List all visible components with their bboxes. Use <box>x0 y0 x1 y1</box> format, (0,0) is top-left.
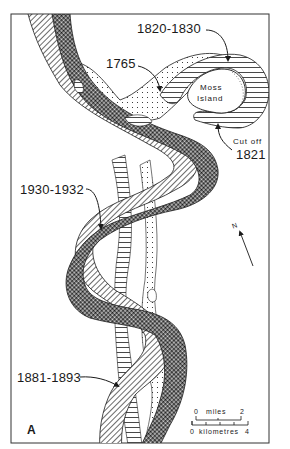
cutoff-year: 1821 <box>236 148 266 161</box>
scale-km-label: kilometres <box>199 428 239 435</box>
label-1881-1893: 1881-1893 <box>17 371 81 384</box>
cutoff-label: Cut off <box>233 138 262 146</box>
scale-miles-label: miles <box>206 408 226 415</box>
label-1820-1830: 1820-1830 <box>137 22 201 35</box>
scale-miles-start: 0 <box>194 408 199 415</box>
label-1930-1932: 1930-1932 <box>20 183 84 196</box>
label-1765: 1765 <box>106 57 136 70</box>
scale-km-end: 4 <box>245 428 250 435</box>
scale-miles-end: 2 <box>240 408 245 415</box>
island-label-line1: Moss <box>200 84 222 92</box>
scale-km-start: 0 <box>190 428 195 435</box>
panel-label: A <box>27 424 36 436</box>
island-label-line2: Island <box>197 95 223 103</box>
